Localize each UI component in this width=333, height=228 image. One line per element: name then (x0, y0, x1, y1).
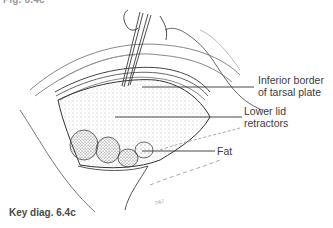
label-fat: Fat (217, 145, 232, 157)
forceps (122, 10, 167, 87)
figure-caption: Key diag. 6.4c (9, 207, 76, 218)
label-line: Lower lid (244, 105, 288, 117)
label-lower-lid-retractors: Lower lid retractors (244, 105, 288, 129)
label-line: retractors (244, 117, 288, 129)
label-line: Fat (217, 145, 232, 157)
label-line: of tarsal plate (258, 86, 324, 98)
label-inferior-border-tarsal-plate: Inferior border of tarsal plate (258, 74, 324, 98)
label-line: Inferior border (258, 74, 324, 86)
artist-signature: 7/67 (154, 198, 165, 206)
